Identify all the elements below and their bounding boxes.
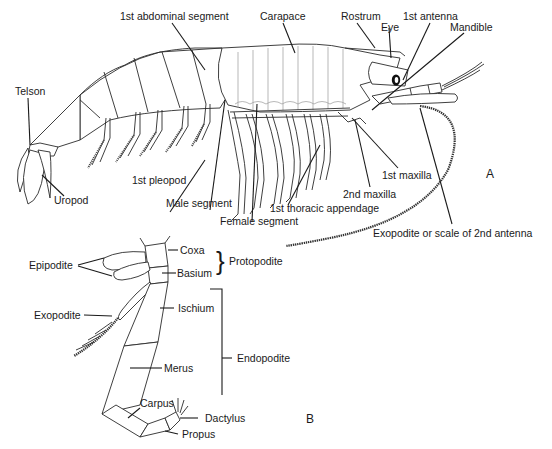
label-1st-antenna: 1st antenna xyxy=(403,11,458,22)
label-basium: Basium xyxy=(177,268,212,279)
label-eye: Eye xyxy=(381,22,399,33)
label-propus: Propus xyxy=(182,429,215,440)
label-uropod: Uropod xyxy=(54,195,88,206)
label-telson: Telson xyxy=(15,86,45,97)
label-mandible: Mandible xyxy=(450,22,493,33)
label-exopodite: Exopodite xyxy=(34,310,81,321)
label-1st-maxilla: 1st maxilla xyxy=(382,170,432,181)
protopodite-bracket: } xyxy=(216,248,225,274)
label-protopodite: Protopodite xyxy=(229,256,283,267)
label-dactylus: Dactylus xyxy=(205,413,245,424)
label-male-segment: Male segment xyxy=(166,198,232,209)
label-female-segment: Female segment xyxy=(220,216,298,227)
label-coxa: Coxa xyxy=(180,245,205,256)
label-carapace: Carapace xyxy=(260,11,306,22)
label-2nd-maxilla: 2nd maxilla xyxy=(343,189,396,200)
panel-label-a: A xyxy=(486,168,494,180)
label-1st-thoracic-appendage: 1st thoracic appendage xyxy=(270,203,379,214)
label-epipodite: Epipodite xyxy=(29,260,73,271)
label-1st-pleopod: 1st pleopod xyxy=(132,175,186,186)
label-exopodite-scale-2nd-antenna: Exopodite or scale of 2nd antenna xyxy=(373,228,532,239)
label-merus: Merus xyxy=(164,363,193,374)
label-1st-abdominal-segment: 1st abdominal segment xyxy=(120,11,229,22)
label-endopodite: Endopodite xyxy=(237,353,290,364)
panel-label-b: B xyxy=(306,413,314,425)
label-carpus: Carpus xyxy=(140,398,174,409)
label-ischium: Ischium xyxy=(178,303,214,314)
crustacean-anatomy-figure: 1st abdominal segment Carapace Rostrum E… xyxy=(0,0,552,449)
label-rostrum: Rostrum xyxy=(341,11,381,22)
